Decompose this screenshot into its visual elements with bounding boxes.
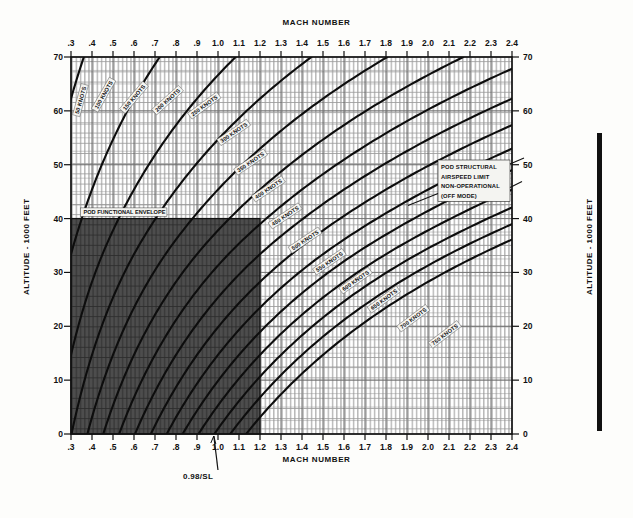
y-tick-label-left-60: 60 — [43, 106, 63, 116]
x-tick-label-top-1.8: 1.8 — [375, 38, 397, 48]
y-tick-label-left-50: 50 — [43, 160, 63, 170]
x-tick-label-bot-.6: .6 — [123, 442, 145, 452]
x-tick-label-bot-2.2: 2.2 — [459, 442, 481, 452]
x-tick-label-top-.6: .6 — [123, 38, 145, 48]
svg-text:POD STRUCTURAL: POD STRUCTURAL — [441, 164, 497, 170]
x-tick-label-bot-1.1: 1.1 — [228, 442, 250, 452]
x-tick-label-top-1.0: 1.0 — [207, 38, 229, 48]
x-tick-label-bot-2.1: 2.1 — [438, 442, 460, 452]
x-tick-label-bot-.4: .4 — [81, 442, 103, 452]
x-tick-label-top-2.3: 2.3 — [480, 38, 502, 48]
x-tick-label-top-1.6: 1.6 — [333, 38, 355, 48]
y-tick-label-right-60: 60 — [523, 106, 532, 116]
y-tick-label-left-20: 20 — [43, 321, 63, 331]
x-tick-label-bot-1.7: 1.7 — [354, 442, 376, 452]
svg-text:NON-OPERATIONAL: NON-OPERATIONAL — [441, 183, 500, 189]
y-tick-label-right-0: 0 — [523, 429, 528, 439]
x-tick-label-top-1.4: 1.4 — [291, 38, 313, 48]
x-tick-label-top-.5: .5 — [102, 38, 124, 48]
x-tick-label-bot-.8: .8 — [165, 442, 187, 452]
x-tick-label-bot-1.2: 1.2 — [249, 442, 271, 452]
y-tick-label-right-70: 70 — [523, 52, 532, 62]
x-tick-label-top-.3: .3 — [60, 38, 82, 48]
x-tick-label-bot-1.3: 1.3 — [270, 442, 292, 452]
x-tick-label-bot-.7: .7 — [144, 442, 166, 452]
x-tick-label-bot-.9: .9 — [186, 442, 208, 452]
y-tick-label-right-30: 30 — [523, 267, 532, 277]
x-tick-label-bot-1.4: 1.4 — [291, 442, 313, 452]
y-tick-label-left-40: 40 — [43, 214, 63, 224]
x-tick-label-top-1.1: 1.1 — [228, 38, 250, 48]
svg-text:AIRSPEED LIMIT: AIRSPEED LIMIT — [441, 174, 490, 180]
y-tick-label-right-20: 20 — [523, 321, 532, 331]
x-tick-label-top-1.5: 1.5 — [312, 38, 334, 48]
y-tick-label-left-70: 70 — [43, 52, 63, 62]
x-tick-label-top-2.0: 2.0 — [417, 38, 439, 48]
sea-level-note: 0.98/SL — [183, 472, 213, 481]
x-tick-label-bot-.5: .5 — [102, 442, 124, 452]
x-tick-label-top-.8: .8 — [165, 38, 187, 48]
x-tick-label-top-1.3: 1.3 — [270, 38, 292, 48]
x-tick-label-bot-2.0: 2.0 — [417, 442, 439, 452]
x-tick-label-top-.4: .4 — [81, 38, 103, 48]
x-tick-label-bot-1.8: 1.8 — [375, 442, 397, 452]
x-tick-label-top-2.2: 2.2 — [459, 38, 481, 48]
x-tick-label-bot-2.4: 2.4 — [501, 442, 523, 452]
y-tick-label-right-50: 50 — [523, 160, 532, 170]
x-tick-label-top-1.9: 1.9 — [396, 38, 418, 48]
x-tick-label-top-2.4: 2.4 — [501, 38, 523, 48]
x-tick-label-top-1.7: 1.7 — [354, 38, 376, 48]
x-tick-label-bot-.3: .3 — [60, 442, 82, 452]
x-tick-label-top-1.2: 1.2 — [249, 38, 271, 48]
svg-text:POD FUNCTIONAL ENVELOPE: POD FUNCTIONAL ENVELOPE — [83, 209, 165, 215]
flight-envelope-chart: MACH NUMBER MACH NUMBER ALTITUDE - 1000 … — [0, 0, 633, 518]
plot-area: 50 KNOTS100 KNOTS150 KNOTS200 KNOTS250 K… — [0, 0, 633, 518]
y-tick-label-left-10: 10 — [43, 375, 63, 385]
x-tick-label-bot-1.5: 1.5 — [312, 442, 334, 452]
x-tick-label-bot-1.9: 1.9 — [396, 442, 418, 452]
y-tick-label-right-40: 40 — [523, 214, 532, 224]
x-tick-label-top-.7: .7 — [144, 38, 166, 48]
y-tick-label-right-10: 10 — [523, 375, 532, 385]
y-tick-label-left-0: 0 — [43, 429, 63, 439]
x-tick-label-top-.9: .9 — [186, 38, 208, 48]
y-tick-label-left-30: 30 — [43, 267, 63, 277]
svg-text:(OFF MODE): (OFF MODE) — [441, 193, 477, 199]
x-tick-label-bot-1.0: 1.0 — [207, 442, 229, 452]
x-tick-label-bot-1.6: 1.6 — [333, 442, 355, 452]
x-tick-label-bot-2.3: 2.3 — [480, 442, 502, 452]
envelope-label: POD FUNCTIONAL ENVELOPE — [80, 208, 167, 216]
x-tick-label-top-2.1: 2.1 — [438, 38, 460, 48]
page-margin-bar — [597, 133, 602, 431]
